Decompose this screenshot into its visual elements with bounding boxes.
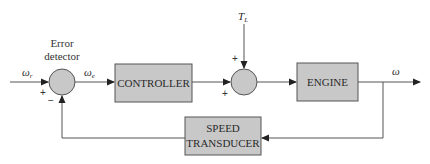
load-summing-junction: [231, 69, 257, 95]
load-junction-top-plus-sign: +: [232, 53, 238, 64]
load-torque-label: TL: [238, 10, 248, 24]
reference-signal-label: ωr: [22, 66, 33, 80]
error-detector-plus-sign: +: [40, 87, 46, 98]
block-diagram: ωr + − Error detector ωe CONTROLLER + TL…: [0, 0, 430, 164]
error-detector-label-line2: detector: [44, 50, 80, 62]
error-detector-junction: [49, 69, 75, 95]
load-junction-left-plus-sign: +: [222, 88, 228, 99]
controller-label: CONTROLLER: [117, 77, 190, 89]
speed-transducer-label-line2: TRANSDUCER: [186, 137, 260, 149]
engine-label: ENGINE: [307, 76, 348, 88]
speed-transducer-label-line1: SPEED: [206, 122, 240, 134]
error-detector-minus-sign: −: [48, 95, 54, 106]
output-signal-label: ω: [392, 65, 400, 77]
error-detector-label-line1: Error: [50, 37, 74, 49]
error-signal-label: ωe: [84, 66, 95, 80]
